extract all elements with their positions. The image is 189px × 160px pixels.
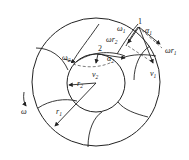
outer-circle [32, 18, 160, 146]
r1-label: r1 [56, 107, 62, 117]
diagram-canvas: 1 2 ω1 α1 ωr2 ωr1 ω2 α2 v1 v2 r2 ω r1 [0, 0, 189, 160]
r2-label: r2 [77, 79, 83, 89]
v2-label: v2 [92, 70, 99, 80]
alpha2-label: α2 [107, 54, 114, 64]
omega1-label: ω1 [117, 24, 126, 34]
omega-label: ω [21, 107, 27, 116]
point-1-label: 1 [138, 17, 142, 26]
alpha1-label: α1 [145, 26, 152, 36]
omega2-label: ω2 [62, 53, 71, 63]
omega-r2-label: ωr2 [106, 35, 118, 45]
omega-r1-label: ωr1 [165, 46, 177, 56]
point-2-label: 2 [98, 44, 102, 53]
v1-label: v1 [150, 69, 157, 79]
